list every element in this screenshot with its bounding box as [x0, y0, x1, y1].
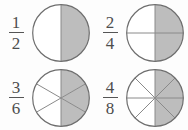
- sector-unshaded: [33, 4, 61, 61]
- fraction-item-four-eighths: 4 8: [94, 65, 188, 130]
- fraction-circle-svg: [125, 3, 185, 63]
- fraction-label-four-eighths: 4 8: [96, 79, 124, 117]
- fraction-item-three-sixths: 3 6: [0, 65, 94, 130]
- fraction-bar: [103, 32, 118, 33]
- fraction-circle-svg: [125, 68, 185, 128]
- fraction-circle-three-sixths: [31, 68, 91, 128]
- fraction-circle-two-fourths: [125, 3, 185, 63]
- fraction-numerator: 4: [105, 79, 116, 96]
- fraction-circle-four-eighths: [125, 68, 185, 128]
- fraction-circle-svg: [31, 3, 91, 63]
- sector-shaded: [61, 4, 89, 61]
- fraction-denominator: 8: [105, 100, 116, 117]
- fraction-bar: [9, 97, 24, 98]
- fraction-circles-sheet: 1 2 2 4 3 6 4 8: [0, 0, 188, 130]
- fraction-label-one-half: 1 2: [2, 14, 30, 52]
- fraction-denominator: 6: [11, 100, 22, 117]
- fraction-circle-svg: [31, 68, 91, 128]
- fraction-numerator: 3: [11, 79, 22, 96]
- fraction-item-two-fourths: 2 4: [94, 0, 188, 65]
- fraction-numerator: 2: [105, 14, 116, 31]
- fraction-numerator: 1: [11, 14, 22, 31]
- fraction-label-three-sixths: 3 6: [2, 79, 30, 117]
- fraction-item-one-half: 1 2: [0, 0, 94, 65]
- fraction-label-two-fourths: 2 4: [96, 14, 124, 52]
- fraction-bar: [103, 97, 118, 98]
- fraction-bar: [9, 32, 24, 33]
- fraction-denominator: 2: [11, 35, 22, 52]
- fraction-circle-one-half: [31, 3, 91, 63]
- fraction-denominator: 4: [105, 35, 116, 52]
